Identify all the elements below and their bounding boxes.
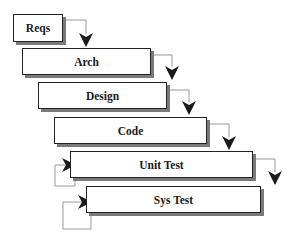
arrowhead-down-icon [222, 136, 236, 150]
waterfall-diagram: Reqs Arch Design Code Unit Test Sys Test [0, 0, 301, 243]
connector-design-code [167, 90, 189, 102]
stage-unit-test: Unit Test [70, 151, 253, 178]
connector-arch-design [151, 55, 172, 67]
arrowhead-down-icon [165, 66, 179, 80]
stage-code: Code [54, 117, 207, 144]
arrowhead-down-icon [268, 171, 282, 185]
stage-sys-test: Sys Test [86, 186, 261, 213]
arrowhead-down-icon [182, 101, 196, 115]
connector-reqs-arch [63, 20, 86, 34]
stage-arch: Arch [22, 48, 151, 75]
stage-reqs: Reqs [13, 14, 63, 42]
stage-design: Design [38, 82, 167, 109]
connector-code-unit [207, 124, 229, 137]
connector-unit-sys [253, 159, 275, 172]
arrowhead-down-icon [79, 33, 93, 47]
